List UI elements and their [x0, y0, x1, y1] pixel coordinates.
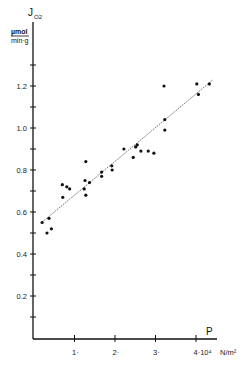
scatter-chart: J O2 µmol min·g 0.20.40.60.81.01.2 1·2·3… [0, 0, 249, 372]
data-point [111, 168, 114, 171]
data-point [139, 150, 142, 153]
data-point [83, 179, 86, 182]
data-point [197, 93, 200, 96]
y-tick-label: 0.4 [17, 250, 27, 259]
y-tick-label: 0.8 [17, 166, 27, 175]
x-tick-label: 2· [113, 348, 120, 357]
y-axis-unit: µmol min·g [11, 28, 29, 45]
data-point [163, 118, 166, 121]
x-axis-unit: N/m² [220, 348, 237, 357]
data-point [41, 221, 44, 224]
data-point [84, 160, 87, 163]
regression-line [42, 80, 213, 223]
y-unit-denominator: min·g [11, 37, 29, 45]
data-point [47, 217, 50, 220]
data-point [83, 187, 86, 190]
y-tick-label: 1.2 [17, 82, 27, 91]
data-point [163, 129, 166, 132]
data-point [162, 84, 165, 87]
data-point [208, 82, 211, 85]
data-point [152, 152, 155, 155]
data-point [147, 150, 150, 153]
data-point [45, 231, 48, 234]
data-point [84, 194, 87, 197]
y-unit-numerator: µmol [11, 28, 28, 36]
data-point [100, 171, 103, 174]
data-point [136, 143, 139, 146]
y-tick-label: 1.0 [17, 124, 27, 133]
data-point [61, 183, 64, 186]
data-point [132, 156, 135, 159]
data-point [61, 196, 64, 199]
x-axis-title: P [206, 326, 213, 337]
data-point [65, 185, 68, 188]
x-axis-ticks: 1·2·3·4·10⁴ [72, 335, 212, 357]
data-points [41, 82, 211, 234]
data-point [195, 82, 198, 85]
y-tick-label: 0.6 [17, 208, 27, 217]
x-tick-label: 3· [153, 348, 160, 357]
data-point [68, 187, 71, 190]
data-point [100, 175, 103, 178]
data-point [88, 181, 91, 184]
y-axis-subscript: O2 [34, 14, 43, 20]
y-axis-symbol: J [28, 7, 33, 18]
y-tick-label: 0.2 [17, 292, 27, 301]
data-point [110, 164, 113, 167]
data-point [50, 227, 53, 230]
data-point [122, 147, 125, 150]
y-axis-title: J O2 [28, 7, 43, 20]
x-tick-label: 4·10⁴ [194, 348, 212, 357]
x-tick-label: 1· [72, 348, 79, 357]
